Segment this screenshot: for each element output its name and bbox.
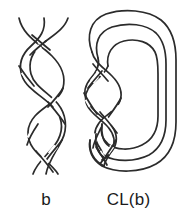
closure-arc-middle xyxy=(95,24,166,160)
closure-arc-outer xyxy=(89,11,176,171)
braid-strands xyxy=(19,18,68,174)
closure-diagram-panel xyxy=(72,0,185,186)
closure-caption: CL(b) xyxy=(72,190,185,210)
closure-arc-inner xyxy=(101,40,158,149)
knot-theory-figure: b CL(b) xyxy=(0,0,185,220)
closure-svg xyxy=(72,0,185,186)
closure-arcs xyxy=(89,11,176,171)
